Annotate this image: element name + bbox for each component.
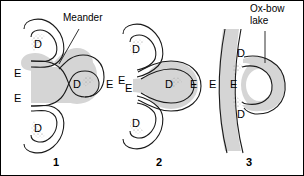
oxbow-lake-formation-diagram: Meander Ox-bow lake D D D E E E D D D E … bbox=[0, 0, 304, 176]
panel-1-deposition-label-upper: D bbox=[34, 39, 42, 51]
panel-1-number: 1 bbox=[53, 157, 59, 169]
oxbow-callout-label-line2: lake bbox=[250, 16, 268, 27]
panel-2-deposition-label-loop: D bbox=[165, 79, 173, 91]
panel-2-erosion-label-right: E bbox=[190, 79, 197, 91]
panel-2-deposition-label-lower: D bbox=[132, 118, 140, 130]
panel-3-erosion-label-channel: E bbox=[230, 79, 237, 91]
diagram-canvas bbox=[1, 1, 304, 176]
panel-3-erosion-label-left: E bbox=[209, 79, 216, 91]
panel-3-stipple-lower bbox=[233, 94, 243, 107]
panel-1-erosion-label-upper: E bbox=[14, 68, 21, 80]
panel-3-stipple-upper bbox=[233, 63, 243, 76]
oxbow-callout-label-line1: Ox-bow bbox=[250, 4, 284, 15]
panel-3-river bbox=[219, 29, 285, 153]
panel-3-number: 3 bbox=[246, 157, 252, 169]
panel-1-loop-neck bbox=[31, 67, 79, 103]
panel-1-bank-outer-lower bbox=[24, 105, 64, 152]
panel-1-deposition-label-loop: D bbox=[73, 79, 81, 91]
panel-2-number: 2 bbox=[156, 157, 162, 169]
panel-2-erosion-label-neck: E bbox=[125, 83, 132, 95]
panel-2-deposition-label-upper: D bbox=[132, 44, 140, 56]
panel-1-deposition-label-lower: D bbox=[34, 123, 42, 135]
meander-callout-label: Meander bbox=[63, 13, 102, 24]
panel-3-deposition-label-upper: D bbox=[237, 48, 245, 60]
panel-1-erosion-label-lower: E bbox=[14, 93, 21, 105]
panel-3-deposition-label-lower: D bbox=[237, 109, 245, 121]
panel-1-erosion-label-outer: E bbox=[106, 79, 113, 91]
